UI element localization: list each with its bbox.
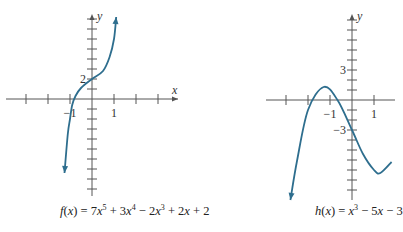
y-tick-label: −3 <box>333 123 346 137</box>
x-tick-label: 1 <box>111 106 117 120</box>
y-tick-label: 3 <box>340 63 346 77</box>
x-axis-arrow-icon <box>172 97 178 102</box>
y-axis-arrow-icon <box>350 14 355 20</box>
caption-h: h(x) = x3 − 5x − 3 <box>315 203 403 219</box>
x-tick-label: −1 <box>324 107 337 121</box>
curve-h <box>290 87 391 200</box>
graph-h: y−113−3 <box>266 9 395 200</box>
graph-f: yx−112 <box>6 9 178 196</box>
curve-f <box>65 17 117 173</box>
x-axis-label: x <box>171 83 178 97</box>
x-tick-label: 1 <box>371 107 377 121</box>
y-axis-label: y <box>356 9 363 23</box>
caption-f: f(x) = 7x5 + 3x4 − 2x3 + 2x + 2 <box>60 203 209 219</box>
y-axis-label: y <box>96 9 103 23</box>
curve-arrow-icon <box>289 193 295 200</box>
